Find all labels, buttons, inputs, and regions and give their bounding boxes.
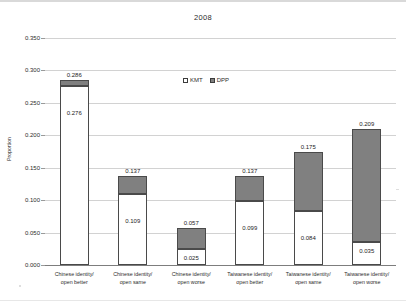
- bar-segment-dpp[interactable]: [352, 129, 381, 242]
- bar-group[interactable]: 0.0250.057: [177, 228, 206, 265]
- x-axis-label-line: open better: [221, 278, 280, 286]
- x-axis-category-label: Taiwanese identity/open worse: [338, 270, 397, 286]
- bar-total-label: 0.137: [110, 168, 155, 174]
- gridline: [45, 265, 396, 266]
- x-axis-label-line: open better: [45, 278, 104, 286]
- bar-group[interactable]: 0.0840.175: [294, 152, 323, 266]
- bar-group[interactable]: 0.0990.137: [235, 176, 264, 265]
- bar-group[interactable]: 0.2760.286: [60, 80, 89, 265]
- bar-segment-dpp[interactable]: [60, 80, 89, 86]
- bar-segment-kmt[interactable]: [235, 201, 264, 265]
- bar-total-label: 0.209: [344, 121, 389, 127]
- y-tick-label: 0.350: [25, 35, 40, 41]
- bar-segment-dpp[interactable]: [294, 152, 323, 211]
- x-axis-category-label: Chinese identity/open worse: [162, 270, 221, 286]
- scan-speck: [19, 285, 21, 287]
- bar-value-label-kmt: 0.035: [352, 248, 381, 254]
- bar-segment-kmt[interactable]: [118, 194, 147, 265]
- bar-total-label: 0.057: [169, 220, 214, 226]
- legend-label-dpp: DPP: [217, 77, 229, 83]
- bar-series-container: 0.2760.2860.1090.1370.0250.0570.0990.137…: [45, 38, 396, 265]
- x-axis-label-line: Chinese identity/: [104, 270, 163, 278]
- bar-total-label: 0.137: [227, 168, 272, 174]
- bar-group[interactable]: 0.0350.209: [352, 129, 381, 265]
- scan-speck: [396, 189, 399, 190]
- x-axis-label-line: open worse: [162, 278, 221, 286]
- bar-total-label: 0.175: [286, 144, 331, 150]
- bar-segment-dpp[interactable]: [235, 176, 264, 201]
- bar-segment-dpp[interactable]: [177, 228, 206, 249]
- chart-title: 2008: [0, 13, 406, 22]
- x-axis-category-label: Chinese identity/open same: [104, 270, 163, 286]
- x-axis-label-line: Chinese identity/: [162, 270, 221, 278]
- y-tick-mark: [41, 265, 45, 266]
- y-tick-label: 0.000: [25, 262, 40, 268]
- y-tick-label: 0.050: [25, 230, 40, 236]
- x-axis-category-label: Taiwanese identity/open better: [221, 270, 280, 286]
- bar-total-label: 0.286: [52, 72, 97, 78]
- y-tick-label: 0.100: [25, 197, 40, 203]
- plot-area: 0.0000.0500.1000.1500.2000.2500.3000.350…: [45, 38, 396, 265]
- y-tick-label: 0.300: [25, 67, 40, 73]
- y-axis-title: Proportion: [6, 119, 12, 179]
- legend-swatch-dpp-icon: [210, 78, 215, 83]
- x-axis-label-line: Chinese identity/: [45, 270, 104, 278]
- y-tick-label: 0.200: [25, 132, 40, 138]
- legend-label-kmt: KMT: [190, 77, 203, 83]
- x-axis-label-line: open same: [279, 278, 338, 286]
- bar-group[interactable]: 0.1090.137: [118, 176, 147, 265]
- x-axis-category-labels: Chinese identity/open betterChinese iden…: [45, 270, 396, 300]
- y-tick-label: 0.250: [25, 100, 40, 106]
- bar-value-label-kmt: 0.025: [177, 255, 206, 261]
- legend-swatch-kmt-icon: [183, 78, 188, 83]
- y-tick-label: 0.150: [25, 165, 40, 171]
- x-axis-label-line: Taiwanese identity/: [221, 270, 280, 278]
- bar-value-label-kmt: 0.084: [294, 235, 323, 241]
- x-axis-category-label: Chinese identity/open better: [45, 270, 104, 286]
- x-axis-label-line: open same: [104, 278, 163, 286]
- bar-value-label-kmt: 0.276: [60, 110, 89, 116]
- x-axis-label-line: open worse: [338, 278, 397, 286]
- legend-item-dpp: DPP: [210, 77, 229, 83]
- page-edge-top: [0, 0, 406, 2]
- bar-value-label-kmt: 0.099: [235, 225, 264, 231]
- legend-item-kmt: KMT: [183, 77, 203, 83]
- x-axis-label-line: Taiwanese identity/: [338, 270, 397, 278]
- x-axis-label-line: Taiwanese identity/: [279, 270, 338, 278]
- stacked-bar-chart: 2008 Proportion 0.0000.0500.1000.1500.20…: [0, 0, 406, 301]
- chart-legend: KMT DPP: [183, 77, 229, 83]
- bar-value-label-kmt: 0.109: [118, 218, 147, 224]
- bar-segment-dpp[interactable]: [118, 176, 147, 194]
- x-axis-category-label: Taiwanese identity/open same: [279, 270, 338, 286]
